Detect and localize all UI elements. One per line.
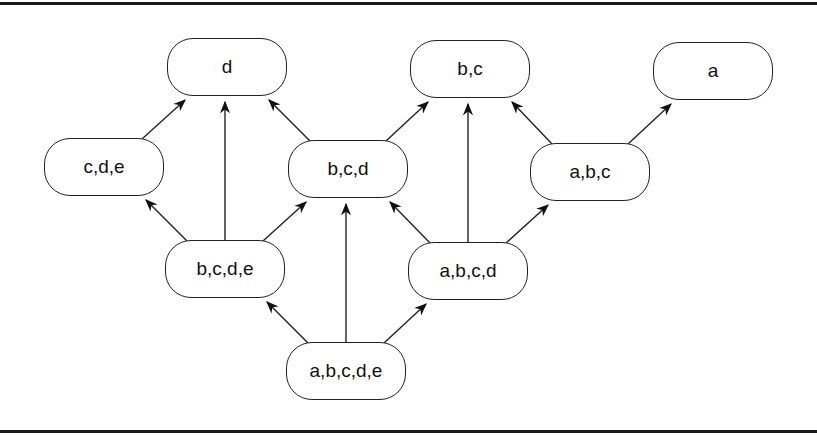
lattice-node-abc: a,b,c — [530, 143, 650, 201]
edge-arrow-bcd-to-bc — [386, 102, 428, 141]
lattice-node-bcd: b,c,d — [288, 140, 408, 198]
edge-arrow-abc-to-bc — [512, 102, 552, 144]
edge-arrow-bcde-to-cde — [146, 200, 187, 241]
lattice-node-abcd: a,b,c,d — [408, 242, 528, 300]
lattice-node-bcde: b,c,d,e — [165, 240, 285, 298]
edge-arrow-cde-to-d — [142, 100, 185, 139]
edge-arrow-abcde-to-abcd — [384, 304, 426, 343]
edge-arrow-abcd-to-bcd — [390, 202, 430, 243]
edge-arrow-bcde-to-bcd — [263, 202, 306, 241]
lattice-node-cde: c,d,e — [44, 138, 164, 196]
lattice-node-a: a — [653, 42, 773, 100]
lattice-node-abcde: a,b,c,d,e — [286, 342, 406, 400]
edge-arrow-abcd-to-abc — [506, 205, 548, 243]
lattice-node-bc: b,c — [410, 40, 530, 98]
edge-arrow-abc-to-a — [628, 104, 671, 144]
lattice-node-d: d — [167, 38, 287, 96]
edge-arrow-bcd-to-d — [269, 100, 310, 141]
edge-arrow-abcde-to-bcde — [267, 302, 308, 343]
